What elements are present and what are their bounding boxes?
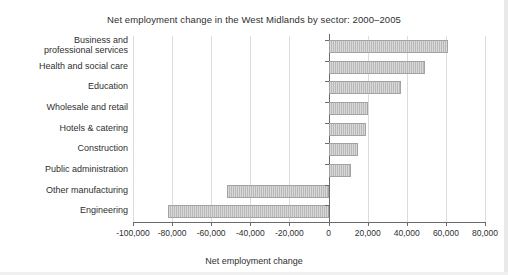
y-axis-label: Hotels & catering — [59, 123, 128, 134]
x-tick — [289, 222, 290, 226]
bar — [168, 205, 328, 218]
x-tick — [172, 222, 173, 226]
gridline — [446, 36, 447, 222]
bar — [329, 61, 426, 74]
x-tick — [407, 222, 408, 226]
y-axis-category-labels: Business andprofessional servicesHealth … — [0, 36, 128, 222]
bar — [329, 40, 448, 53]
x-tick — [485, 222, 486, 226]
bar — [329, 81, 401, 94]
gridline — [211, 36, 212, 222]
x-tick-label: 80,000 — [472, 228, 498, 238]
bar-chart: Net employment change in the West Midlan… — [0, 0, 508, 275]
x-tick — [329, 222, 330, 226]
y-axis-label-line: Health and social care — [39, 61, 128, 72]
y-axis-label-line: Engineering — [80, 205, 128, 216]
y-axis-label: Health and social care — [39, 61, 128, 72]
y-axis-label: Business andprofessional services — [44, 35, 128, 56]
y-axis-label: Education — [88, 81, 128, 92]
y-tick — [325, 143, 329, 144]
y-tick — [325, 123, 329, 124]
y-axis-label-line: Wholesale and retail — [46, 102, 128, 113]
y-axis-label: Other manufacturing — [46, 185, 128, 196]
x-tick-label: -100,000 — [116, 228, 150, 238]
bar — [329, 123, 366, 136]
x-tick — [133, 222, 134, 226]
gridline — [172, 36, 173, 222]
gridline — [485, 36, 486, 222]
x-tick-label: -80,000 — [158, 228, 187, 238]
bar — [227, 185, 329, 198]
y-axis-label: Construction — [77, 143, 128, 154]
x-tick-label: -60,000 — [197, 228, 226, 238]
bar — [329, 143, 358, 156]
x-tick-label: -20,000 — [275, 228, 304, 238]
x-tick — [368, 222, 369, 226]
y-axis-label-line: Public administration — [45, 164, 128, 175]
x-axis-title: Net employment change — [0, 256, 508, 266]
x-tick — [446, 222, 447, 226]
x-tick-label: 40,000 — [394, 228, 420, 238]
y-tick — [325, 61, 329, 62]
x-tick-label: 60,000 — [433, 228, 459, 238]
y-tick — [325, 81, 329, 82]
x-tick — [211, 222, 212, 226]
y-axis-label-line: Construction — [77, 143, 128, 154]
y-axis-label: Wholesale and retail — [46, 102, 128, 113]
x-tick-label: -40,000 — [236, 228, 265, 238]
x-axis-line — [133, 222, 485, 223]
y-axis-label: Engineering — [80, 205, 128, 216]
y-axis-label-line: professional services — [44, 45, 128, 56]
page-edge-right — [504, 0, 508, 275]
y-tick — [325, 102, 329, 103]
y-tick — [325, 164, 329, 165]
bar — [329, 102, 368, 115]
y-axis-label-line: Business and — [44, 35, 128, 46]
x-tick-label: 0 — [326, 228, 331, 238]
y-tick — [325, 205, 329, 206]
gridline — [133, 36, 134, 222]
y-axis-label: Public administration — [45, 164, 128, 175]
y-tick — [325, 40, 329, 41]
x-tick — [250, 222, 251, 226]
plot-area — [133, 36, 485, 222]
y-axis-label-line: Hotels & catering — [59, 123, 128, 134]
y-tick — [325, 185, 329, 186]
chart-title: Net employment change in the West Midlan… — [0, 14, 508, 25]
y-axis-label-line: Other manufacturing — [46, 185, 128, 196]
bar — [329, 164, 352, 177]
y-axis-label-line: Education — [88, 81, 128, 92]
x-tick-label: 20,000 — [355, 228, 381, 238]
